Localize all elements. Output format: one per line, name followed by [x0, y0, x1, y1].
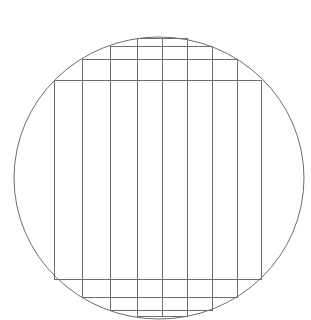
stepped-rect-1 — [83, 60, 238, 298]
circle-columns-diagram — [0, 0, 311, 320]
diagram-canvas — [0, 0, 311, 320]
stepped-rect-2 — [111, 47, 213, 311]
outer-circle — [14, 37, 304, 319]
outer-rectangle — [55, 81, 262, 280]
